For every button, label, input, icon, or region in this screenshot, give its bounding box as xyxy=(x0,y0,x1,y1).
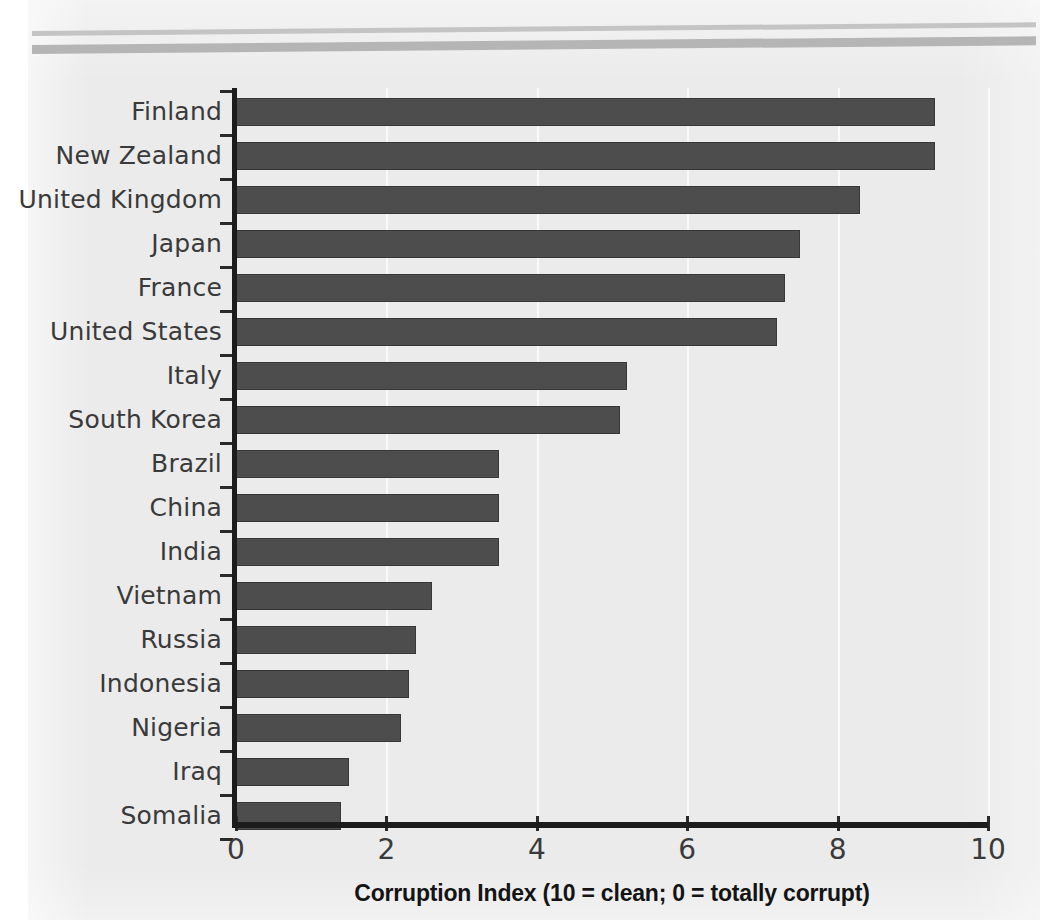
gridline-10 xyxy=(988,88,990,825)
bar[interactable] xyxy=(236,538,499,566)
category-label: Russia xyxy=(140,627,222,652)
bar[interactable] xyxy=(236,670,409,698)
category-label: Italy xyxy=(167,363,222,388)
category-label: Nigeria xyxy=(131,715,222,740)
bar[interactable] xyxy=(236,582,432,610)
bar[interactable] xyxy=(236,98,935,126)
bar[interactable] xyxy=(236,406,620,434)
category-label: United States xyxy=(50,319,222,344)
x-axis-tick-label: 6 xyxy=(647,836,727,864)
category-label: South Korea xyxy=(68,407,222,432)
category-label: France xyxy=(138,275,222,300)
category-label: Brazil xyxy=(151,451,222,476)
bar[interactable] xyxy=(236,230,800,258)
bar[interactable] xyxy=(236,450,499,478)
x-axis-tick-label: 8 xyxy=(798,836,878,864)
bar[interactable] xyxy=(236,714,401,742)
category-label: Somalia xyxy=(121,803,222,828)
x-axis-tick-label: 4 xyxy=(497,836,577,864)
bar[interactable] xyxy=(236,626,416,654)
x-axis-tick-label: 10 xyxy=(948,836,1028,864)
category-label: Japan xyxy=(151,231,222,256)
bar[interactable] xyxy=(236,186,860,214)
category-label: India xyxy=(160,539,222,564)
bar[interactable] xyxy=(236,494,499,522)
y-axis-line xyxy=(232,88,237,828)
category-label: Finland xyxy=(131,99,222,124)
x-axis-tick-label: 0 xyxy=(196,836,276,864)
x-axis-line xyxy=(232,822,988,828)
category-label: Indonesia xyxy=(99,671,222,696)
category-label: New Zealand xyxy=(56,143,222,168)
category-label: Vietnam xyxy=(116,583,222,608)
bar[interactable] xyxy=(236,758,349,786)
chart-page: FinlandNew ZealandUnited KingdomJapanFra… xyxy=(0,0,1040,920)
bar-chart: FinlandNew ZealandUnited KingdomJapanFra… xyxy=(0,0,1040,920)
x-axis-title: Corruption Index (10 = clean; 0 = totall… xyxy=(232,880,992,906)
category-label: China xyxy=(150,495,222,520)
bar[interactable] xyxy=(236,274,785,302)
category-label: Iraq xyxy=(172,759,222,784)
bar[interactable] xyxy=(236,362,627,390)
bar[interactable] xyxy=(236,142,935,170)
x-axis-tick-label: 2 xyxy=(346,836,426,864)
bar[interactable] xyxy=(236,318,777,346)
category-label: United Kingdom xyxy=(19,187,222,212)
